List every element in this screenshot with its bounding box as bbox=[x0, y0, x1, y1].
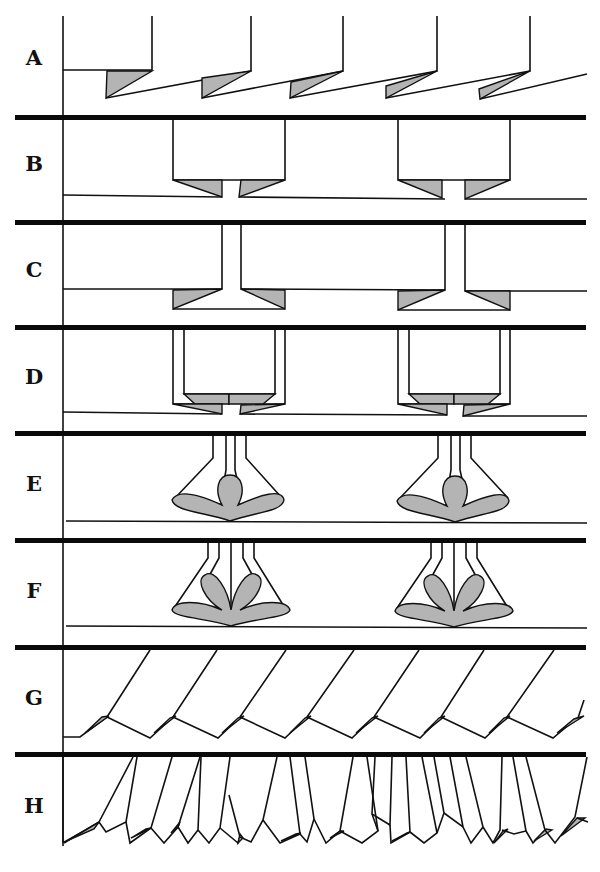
panel-b-drawing bbox=[63, 120, 587, 199]
panel-a-drawing bbox=[63, 16, 587, 99]
separator-bars bbox=[15, 115, 586, 757]
panel-c-drawing bbox=[63, 225, 587, 310]
panel-e-drawing bbox=[66, 436, 587, 523]
panel-g-drawing bbox=[63, 650, 584, 738]
diagram-figure: A B C D E F G H bbox=[0, 0, 600, 872]
panel-d-drawing bbox=[63, 330, 587, 416]
panel-f-drawing bbox=[66, 543, 587, 628]
diagram-drawing bbox=[0, 0, 600, 872]
panel-h-drawing bbox=[63, 757, 588, 843]
